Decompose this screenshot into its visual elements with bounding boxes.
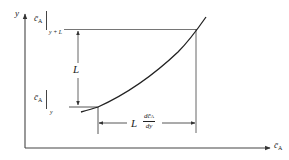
fraction-numerator-symbol: dc̄ <box>144 112 151 120</box>
bottom-value-subscript: A <box>38 97 42 103</box>
top-value-subscript: A <box>38 18 42 24</box>
top-eval-bar <box>46 11 47 30</box>
x-axis-label-subscript: A <box>278 145 282 151</box>
horizontal-dimension-fraction: dc̄A dy <box>143 113 155 130</box>
concentration-curve <box>81 17 206 112</box>
y-axis-label: y <box>15 9 19 18</box>
top-eval-label: y + L <box>49 29 62 35</box>
bottom-eval-label: y <box>50 109 53 115</box>
fraction-denominator: dy <box>146 122 153 130</box>
top-value-label: c̄A <box>34 14 42 24</box>
bottom-eval-bar <box>46 90 47 109</box>
fraction-numerator-subscript: A <box>151 114 155 119</box>
bottom-value-label: c̄A <box>34 93 42 103</box>
fraction-numerator: dc̄A <box>143 113 155 122</box>
horizontal-dimension-prefix: L <box>131 118 137 129</box>
vertical-dimension-label: L <box>73 64 79 75</box>
x-axis-label: c̄A <box>274 141 282 151</box>
diagram-canvas <box>0 0 289 160</box>
